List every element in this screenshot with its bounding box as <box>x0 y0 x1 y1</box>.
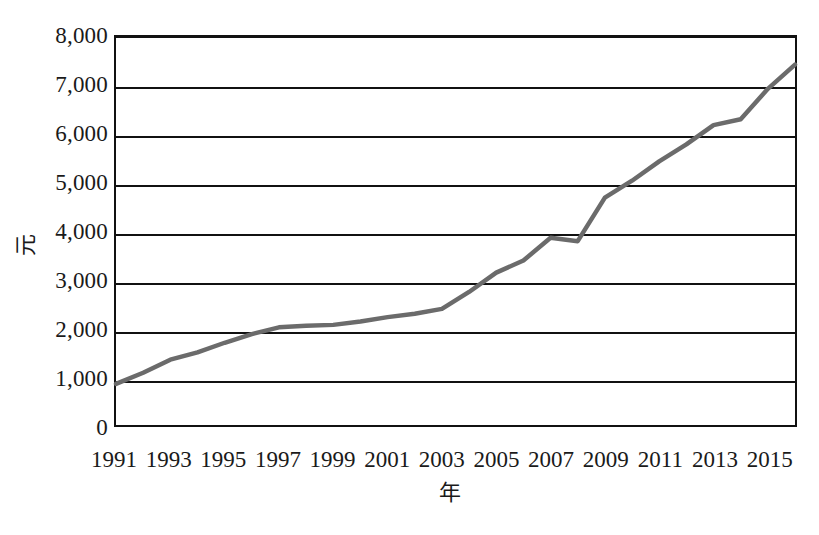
y-tick-label: 4,000 <box>16 220 108 243</box>
series-polyline <box>116 65 795 384</box>
plot-area <box>114 35 797 427</box>
y-tick-label: 7,000 <box>16 73 108 96</box>
y-tick-label: 2,000 <box>16 318 108 341</box>
y-tick-label: 8,000 <box>16 24 108 47</box>
y-tick-label: 6,000 <box>16 122 108 145</box>
x-axis-tick-labels: 1991199319951997199920012003200520072009… <box>0 446 819 478</box>
x-tick-label: 2015 <box>735 446 805 474</box>
line-chart-figure: 元 8,0007,0006,0005,0004,0003,0002,0001,0… <box>0 0 819 535</box>
y-tick-label: 0 <box>16 416 108 439</box>
data-series-line <box>116 38 795 425</box>
y-tick-label: 3,000 <box>16 269 108 292</box>
x-axis-title: 年 <box>415 482 485 504</box>
y-tick-label: 1,000 <box>16 367 108 390</box>
y-tick-label: 5,000 <box>16 171 108 194</box>
